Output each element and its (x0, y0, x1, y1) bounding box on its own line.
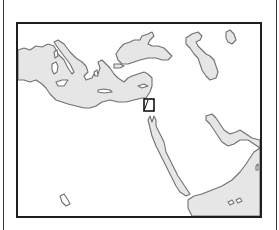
map-frame (16, 22, 262, 218)
persian-gulf (206, 114, 260, 148)
arabian-sea (188, 148, 260, 216)
sardinia-island (52, 62, 58, 74)
left-border-line (3, 0, 4, 230)
red-sea (148, 116, 190, 196)
caspian-sea (186, 32, 218, 80)
right-border-line (276, 0, 277, 230)
aegean-island (94, 70, 98, 76)
crete-island (98, 89, 112, 93)
sea-of-marmara (114, 64, 124, 68)
aral-sea (226, 30, 236, 44)
highlight-box (144, 99, 154, 111)
lake-outline (60, 194, 70, 206)
map-svg (18, 24, 260, 216)
black-sea (116, 32, 172, 64)
corsica-island (54, 50, 58, 58)
